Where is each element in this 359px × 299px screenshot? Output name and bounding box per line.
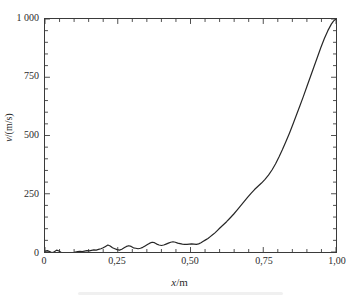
- axis-ticks: [45, 19, 336, 252]
- y-tick-label: 750: [24, 71, 39, 81]
- x-tick-label: 0,25: [97, 256, 137, 266]
- plot-svg: [45, 19, 336, 252]
- x-tick-label: 1,00: [317, 256, 357, 266]
- x-tick-label: 0: [24, 256, 64, 266]
- scan-artifact: [78, 292, 283, 295]
- x-tick-label: 0,75: [244, 256, 284, 266]
- x-axis-title-unit: /m: [176, 276, 188, 288]
- y-axis-title-symbol: v: [3, 137, 14, 141]
- y-tick-label: 500: [24, 130, 39, 140]
- data-series-line: [45, 19, 336, 252]
- y-axis-title: v/(m/s): [3, 96, 14, 160]
- plot-area: [44, 18, 337, 253]
- x-axis-tick-labels: 0 0,25 0,50 0,75 1,00: [0, 256, 359, 270]
- y-axis-title-unit: /(m/s): [3, 113, 14, 137]
- y-tick-label: 250: [24, 189, 39, 199]
- figure-container: 1 000 750 500 250 0 0 0,25 0,50 0,75 1,0…: [0, 0, 359, 299]
- y-tick-label: 1 000: [17, 13, 40, 23]
- x-axis-title: x/m: [0, 276, 359, 288]
- x-tick-label: 0,50: [170, 256, 210, 266]
